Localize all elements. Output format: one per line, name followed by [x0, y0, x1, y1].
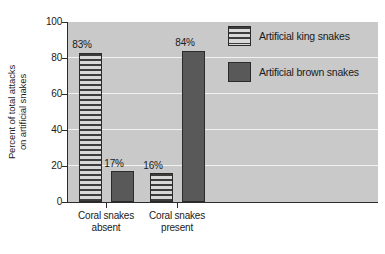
y-tick-label-40: 40: [28, 125, 62, 135]
gridline-60: [68, 93, 378, 94]
x-category-absent-line-1: Coral snakes: [66, 210, 146, 222]
x-category-present-line-1: Coral snakes: [137, 210, 217, 222]
y-tick-label-80: 80: [28, 53, 62, 63]
value-label-king-present: 16%: [131, 161, 175, 171]
value-label-brown-absent: 17%: [92, 159, 136, 169]
gridline-80: [68, 57, 378, 58]
x-category-label-absent: Coral snakes absent: [66, 210, 146, 234]
y-axis-tick-labels: 100 80 60 40 20 0: [28, 0, 62, 254]
y-tick-label-0: 0: [28, 197, 62, 207]
y-axis-title-line-2: on artificial snakes: [17, 65, 28, 159]
x-tick-mark-present: [177, 203, 178, 208]
y-tick-label-60: 60: [28, 89, 62, 99]
gridline-40: [68, 129, 378, 130]
y-tick-label-100: 100: [28, 17, 62, 27]
x-category-absent-line-2: absent: [66, 222, 146, 234]
legend-swatch-brown-snakes-icon: [228, 62, 251, 82]
x-category-label-present: Coral snakes present: [137, 210, 217, 234]
bar-king-snakes-absent: [79, 53, 102, 202]
legend-item-king-snakes: Artificial king snakes: [228, 26, 350, 46]
legend-swatch-king-snakes-icon: [228, 26, 251, 46]
y-tick-label-20: 20: [28, 161, 62, 171]
y-axis-title: Percent of total attacks on artificial s…: [4, 22, 30, 202]
x-tick-mark-absent: [106, 203, 107, 208]
value-label-brown-present: 84%: [163, 38, 207, 48]
plot-area: [68, 22, 378, 202]
bar-king-snakes-present: [150, 173, 173, 202]
legend-label-brown-snakes: Artificial brown snakes: [259, 67, 359, 78]
x-category-present-line-2: present: [137, 222, 217, 234]
value-label-king-absent: 83%: [60, 40, 104, 50]
bar-brown-snakes-absent: [111, 171, 134, 202]
legend-label-king-snakes: Artificial king snakes: [259, 31, 350, 42]
bar-chart-figure: Percent of total attacks on artificial s…: [0, 0, 385, 254]
bar-brown-snakes-present: [182, 51, 205, 202]
x-axis-line: [67, 202, 378, 203]
legend-item-brown-snakes: Artificial brown snakes: [228, 62, 359, 82]
y-axis-title-line-1: Percent of total attacks: [6, 65, 17, 159]
